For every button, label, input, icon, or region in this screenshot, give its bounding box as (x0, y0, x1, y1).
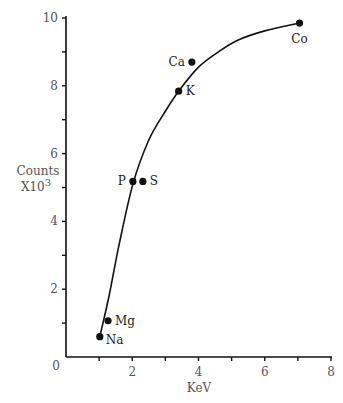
data-point-co (296, 19, 303, 26)
data-point-k (175, 88, 182, 95)
point-label-ca: Ca (169, 55, 185, 69)
x-tick-label: 2 (128, 365, 136, 379)
axes: 24682468100 (43, 11, 335, 379)
y-tick-label: 2 (50, 282, 58, 296)
data-point-s (139, 178, 146, 185)
y-tick-label: 10 (43, 11, 58, 25)
x-tick-label: 4 (195, 365, 203, 379)
y-axis-title-exponent: 3 (45, 177, 51, 188)
data-point-ca (188, 58, 195, 65)
data-point-na (96, 333, 103, 340)
y-axis-title-x10: X10 (21, 180, 45, 194)
point-label-na: Na (106, 333, 124, 347)
x-tick-label: 8 (327, 365, 335, 379)
point-label-mg: Mg (115, 314, 135, 328)
y-tick-label: 4 (50, 214, 58, 228)
point-label-s: S (150, 174, 158, 188)
x-axis-title: KeV (187, 381, 212, 395)
point-label-co: Co (291, 32, 307, 46)
origin-label: 0 (52, 359, 60, 373)
points-layer: NaMgPSKCaCo (96, 19, 308, 346)
data-point-mg (104, 317, 111, 324)
y-axis-title-line2: X103 (21, 177, 51, 194)
y-axis-title-line1: Counts (17, 164, 60, 178)
data-point-p (129, 178, 136, 185)
point-label-p: P (118, 174, 126, 188)
y-tick-label: 8 (50, 79, 58, 93)
y-tick-label: 6 (50, 147, 58, 161)
x-tick-label: 6 (261, 365, 269, 379)
point-label-k: K (186, 84, 196, 98)
chart: 24682468100 NaMgPSKCaCo KeV Counts X103 (0, 0, 343, 403)
